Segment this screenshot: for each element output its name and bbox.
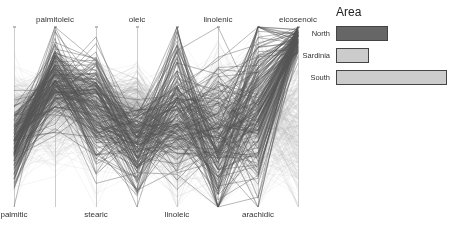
legend-title: Area <box>336 5 361 19</box>
axis-label-palmitic: palmitic <box>0 210 27 219</box>
legend-label-north: North <box>290 29 330 38</box>
parallel-coordinates-plot[interactable] <box>0 0 320 231</box>
legend-label-south: South <box>290 73 330 82</box>
axis-label-stearic: stearic <box>84 210 108 219</box>
legend-bar-south[interactable] <box>336 70 447 85</box>
axis-label-palmitoleic: palmitoleic <box>36 15 74 24</box>
axis-label-linoleic: linoleic <box>165 210 189 219</box>
legend-bar-sardinia[interactable] <box>336 48 369 63</box>
axis-label-arachidic: arachidic <box>242 210 274 219</box>
axis-label-eicosenoic: eicosenoic <box>279 15 317 24</box>
axis-label-linolenic: linolenic <box>204 15 233 24</box>
legend-label-sardinia: Sardinia <box>290 51 330 60</box>
axis-label-oleic: oleic <box>129 15 145 24</box>
legend-bar-north[interactable] <box>336 26 388 41</box>
